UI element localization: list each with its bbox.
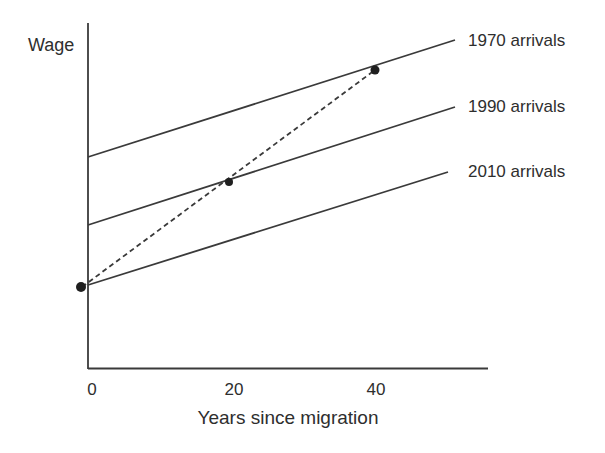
label-1990-arrivals: 1990 arrivals xyxy=(468,97,565,116)
x-axis-label: Years since migration xyxy=(198,407,379,428)
line-1990-arrivals xyxy=(88,107,455,225)
x-tick-0: 0 xyxy=(87,380,96,399)
data-point-20-years xyxy=(225,178,233,186)
x-tick-40: 40 xyxy=(367,380,386,399)
line-2010-arrivals xyxy=(88,172,448,285)
y-axis-label: Wage xyxy=(28,35,74,55)
wage-profile-chart: Wage 1970 arrivals 1990 arrivals 2010 ar… xyxy=(0,0,605,453)
label-2010-arrivals: 2010 arrivals xyxy=(468,162,565,181)
x-tick-20: 20 xyxy=(225,380,244,399)
line-1970-arrivals xyxy=(88,40,455,157)
wage-profile-figure: Wage 1970 arrivals 1990 arrivals 2010 ar… xyxy=(0,0,605,453)
data-point-40-years xyxy=(371,66,380,75)
data-point-0-years xyxy=(76,282,86,292)
label-1970-arrivals: 1970 arrivals xyxy=(468,31,565,50)
